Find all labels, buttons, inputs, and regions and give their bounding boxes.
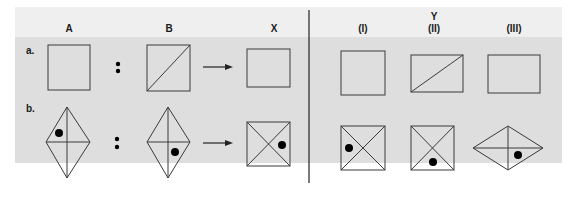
header-b: B [165, 23, 172, 34]
analogy-figure: A B X Y (I) (II) (III) a. b. [0, 0, 573, 199]
dot-marker [55, 129, 63, 137]
row-label-b: b. [26, 103, 35, 114]
header-y-iii: (III) [507, 23, 522, 34]
dot-marker [429, 158, 437, 166]
dot-marker [345, 144, 353, 152]
dot-marker [171, 148, 179, 156]
header-y-ii: (II) [428, 23, 440, 34]
dot-marker [514, 151, 522, 159]
dot-marker [278, 141, 286, 149]
header-y-i: (I) [358, 23, 367, 34]
header-x: X [271, 23, 278, 34]
row-label-a: a. [26, 45, 35, 56]
header-a: A [65, 23, 72, 34]
header-band [15, 7, 562, 37]
header-y: Y [431, 11, 438, 22]
